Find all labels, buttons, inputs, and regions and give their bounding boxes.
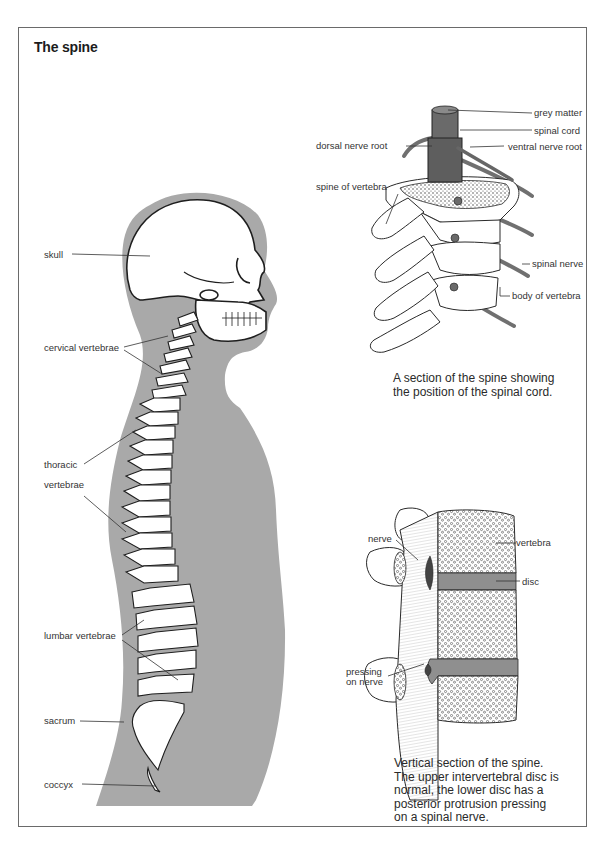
- label-vertebrae: vertebrae: [44, 479, 84, 490]
- section-caption: A section of the spine showing the posit…: [393, 372, 554, 399]
- label-spine-of-vertebra: spine of vertebra: [316, 181, 387, 192]
- caption-line: posterior protrusion pressing: [394, 798, 559, 812]
- illustration: [0, 0, 606, 848]
- label-lumbar-vertebrae: lumbar vertebrae: [44, 630, 116, 641]
- label-sacrum: sacrum: [44, 715, 75, 726]
- label-nerve: nerve: [368, 533, 392, 544]
- section-caption-line: the position of the spinal cord.: [393, 386, 554, 400]
- caption-line: Vertical section of the spine.: [394, 757, 559, 771]
- label-on-nerve: on nerve: [346, 676, 383, 687]
- label-spinal-cord: spinal cord: [534, 125, 580, 136]
- label-ventral-nerve-root: ventral nerve root: [508, 141, 582, 152]
- label-skull: skull: [44, 249, 63, 260]
- label-cervical-vertebrae: cervical vertebrae: [44, 342, 119, 353]
- label-grey-matter: grey matter: [534, 107, 582, 118]
- label-disc: disc: [522, 576, 539, 587]
- label-body-of-vertebra: body of vertebra: [512, 290, 581, 301]
- label-thoracic: thoracic: [44, 459, 77, 470]
- label-spinal-nerve: spinal nerve: [532, 258, 583, 269]
- label-coccyx: coccyx: [44, 779, 73, 790]
- caption-line: normal, the lower disc has a: [394, 784, 559, 798]
- label-vertebra: vertebra: [516, 537, 551, 548]
- caption-line: The upper intervertebral disc is: [394, 771, 559, 785]
- caption-line: on a spinal nerve.: [394, 811, 559, 825]
- section-caption-line: A section of the spine showing: [393, 372, 554, 386]
- vertical-section-caption: Vertical section of the spine. The upper…: [394, 757, 559, 825]
- label-dorsal-nerve-root: dorsal nerve root: [316, 140, 387, 151]
